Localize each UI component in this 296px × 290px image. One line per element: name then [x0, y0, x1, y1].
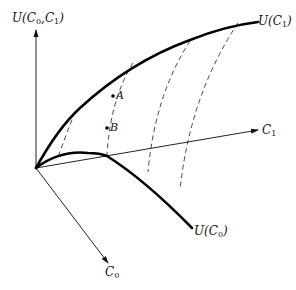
label-text: U(C: [12, 11, 36, 25]
u-c1-label: U(C1): [258, 15, 292, 29]
label-subscript: 1: [271, 129, 276, 138]
point-a: [111, 94, 115, 98]
vertical-axis-label: U(C0,C1): [12, 12, 64, 26]
label-text: C: [105, 265, 114, 279]
c1-axis: [36, 130, 258, 168]
label-text: U(C: [194, 224, 218, 238]
diagram-canvas: [0, 0, 296, 290]
c0-axis: [36, 168, 108, 263]
label-text: U(C: [258, 14, 282, 28]
label-subscript: 0: [114, 271, 119, 280]
c0-axis-label: C0: [105, 266, 119, 280]
point-b-label: B: [110, 122, 118, 133]
label-text: ): [59, 11, 64, 25]
u-c0-label: U(C0): [194, 225, 228, 239]
utility-surface-diagram: U(C0,C1) U(C1) C1 U(C0) C0 A B: [0, 0, 296, 290]
point-a-label: A: [116, 90, 124, 101]
dashed-section-4: [180, 23, 238, 190]
dashed-section-3: [148, 41, 190, 172]
label-text: C: [262, 123, 271, 137]
u-c1-curve: [36, 22, 258, 168]
label-text: ,C: [41, 11, 54, 25]
label-text: ): [287, 14, 292, 28]
point-b: [105, 126, 109, 130]
c1-axis-label: C1: [262, 124, 276, 138]
label-text: ): [223, 224, 228, 238]
